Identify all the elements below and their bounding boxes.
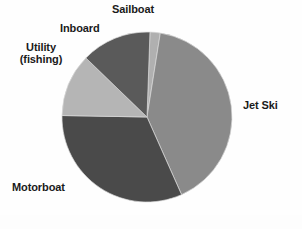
pie-label-utility-line2: (fishing) bbox=[20, 53, 62, 65]
pie-chart-canvas bbox=[0, 0, 302, 229]
figure-bottom-margin bbox=[0, 215, 302, 229]
pie-chart-figure: Sailboat Inboard Utility (fishing) Jet S… bbox=[0, 0, 302, 229]
pie-label-motorboat: Motorboat bbox=[12, 182, 65, 194]
pie-label-inboard: Inboard bbox=[60, 23, 100, 35]
pie-label-utility-line1: Utility bbox=[26, 41, 56, 53]
pie-label-jet-ski: Jet Ski bbox=[243, 100, 278, 112]
pie-slices bbox=[62, 32, 232, 202]
pie-label-sailboat: Sailboat bbox=[112, 4, 154, 16]
pie-label-utility-fishing: Utility (fishing) bbox=[8, 42, 74, 65]
